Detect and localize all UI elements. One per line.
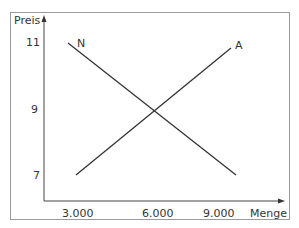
chart-plot: [0, 0, 299, 228]
x-axis-arrow-icon: [278, 199, 285, 204]
series-n-label: N: [77, 37, 85, 50]
x-axis-label: Menge: [250, 207, 287, 220]
x-tick-9000: 9.000: [203, 207, 235, 220]
x-tick-3000: 3.000: [62, 207, 94, 220]
y-tick-11: 11: [26, 36, 40, 49]
x-tick-6000: 6.000: [142, 207, 174, 220]
y-tick-9: 9: [31, 103, 38, 116]
series-a-label: A: [235, 39, 243, 52]
series-n-line: [68, 43, 236, 175]
y-axis-label: Preis: [14, 14, 40, 27]
y-axis-arrow-icon: [42, 15, 47, 22]
y-tick-7: 7: [33, 169, 40, 182]
